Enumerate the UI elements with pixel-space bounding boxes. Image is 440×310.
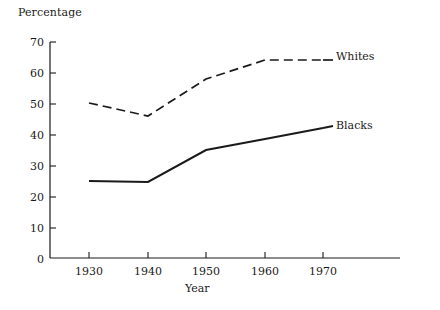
series-leader-blacks	[323, 126, 333, 128]
x-axis-ticks	[89, 252, 323, 258]
y-axis-ticks	[50, 42, 56, 228]
series-line-whites	[89, 60, 323, 116]
series-line-blacks	[89, 128, 323, 182]
plot-area	[0, 0, 440, 310]
line-chart: Percentage Year 70 60 50 40 30 20 10 0 1…	[0, 0, 440, 310]
